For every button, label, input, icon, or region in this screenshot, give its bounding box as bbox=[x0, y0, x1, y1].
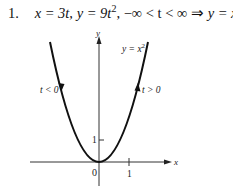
right-branch-arrow-icon bbox=[135, 83, 141, 92]
parabola-graph: y x y = x2 t < 0 t > 0 0 1 1 bbox=[0, 0, 233, 191]
x-axis-label: x bbox=[173, 157, 178, 167]
x-tick-label: 1 bbox=[127, 169, 132, 179]
right-branch-label: t > 0 bbox=[142, 85, 161, 95]
origin-label: 0 bbox=[92, 167, 97, 178]
left-branch-label: t < 0 bbox=[40, 85, 59, 95]
y-axis-label: y bbox=[95, 28, 100, 38]
x-axis-arrow-icon bbox=[164, 160, 172, 165]
curve-label: y = x2 bbox=[121, 42, 146, 54]
y-tick-label: 1 bbox=[92, 135, 97, 145]
